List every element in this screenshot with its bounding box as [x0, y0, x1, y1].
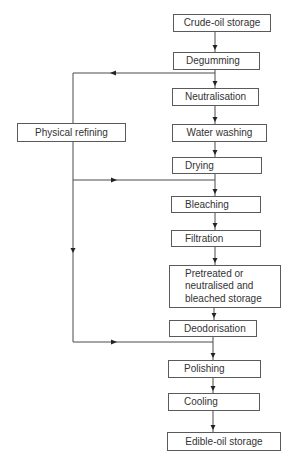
node-drying: Drying — [172, 157, 262, 174]
node-edible-oil-storage: Edible-oil storage — [167, 432, 281, 451]
node-physical-refining: Physical refining — [17, 123, 126, 142]
node-label: Neutralisation — [185, 91, 246, 103]
node-label: Physical refining — [35, 127, 108, 139]
node-label: Edible-oil storage — [185, 436, 262, 448]
node-label: Cooling — [184, 396, 218, 408]
node-label: Polishing — [184, 363, 225, 375]
node-water-washing: Water washing — [172, 124, 267, 142]
node-filtration: Filtration — [171, 230, 261, 247]
node-cooling: Cooling — [168, 393, 260, 411]
node-pretreated-storage: Pretreated or neutralised and bleached s… — [169, 265, 281, 308]
node-label: Crude-oil storage — [184, 17, 261, 29]
refining-flowchart: Crude-oil storage Degumming Neutralisati… — [0, 0, 297, 465]
node-label: Drying — [185, 160, 214, 172]
node-deodorisation: Deodorisation — [169, 320, 257, 337]
node-label: Degumming — [186, 55, 240, 67]
node-label: Deodorisation — [184, 323, 246, 335]
node-crude-oil-storage: Crude-oil storage — [173, 14, 271, 32]
node-polishing: Polishing — [168, 360, 261, 378]
node-label: Water washing — [187, 127, 253, 139]
node-label: Filtration — [185, 233, 223, 245]
node-label: Pretreated or neutralised and bleached s… — [185, 268, 276, 306]
node-label: Bleaching — [185, 199, 229, 211]
node-bleaching: Bleaching — [171, 196, 261, 213]
node-degumming: Degumming — [173, 52, 260, 70]
node-neutralisation: Neutralisation — [172, 88, 259, 106]
